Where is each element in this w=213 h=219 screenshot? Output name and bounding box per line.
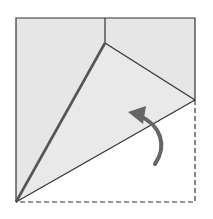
origami-diagram — [0, 0, 213, 219]
